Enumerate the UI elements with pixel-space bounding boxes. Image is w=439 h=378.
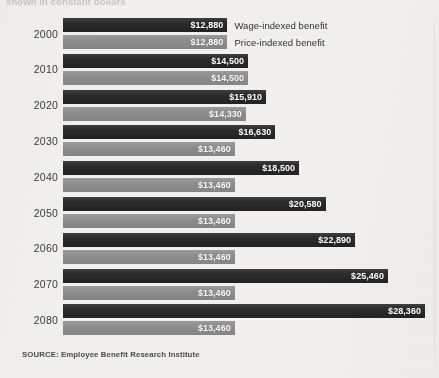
bar-group-2060: 2060$22,890$13,460 xyxy=(0,233,439,264)
price-indexed-value-label-2060: $13,460 xyxy=(198,250,231,264)
bar-group-2040: 2040$18,500$13,460 xyxy=(0,161,439,192)
bar-group-2050: 2050$20,580$13,460 xyxy=(0,197,439,228)
price-indexed-value-label-2000: $12,880 xyxy=(191,35,224,49)
source-note: SOURCE: Employee Benefit Research Instit… xyxy=(22,350,200,359)
bar-group-2070: 2070$25,460$13,460 xyxy=(0,269,439,300)
wage-indexed-value-label-2050: $20,580 xyxy=(289,197,322,211)
price-indexed-bar-2040: $13,460 xyxy=(63,178,235,192)
price-indexed-value-label-2080: $13,460 xyxy=(198,321,231,335)
price-indexed-value-label-2040: $13,460 xyxy=(198,178,231,192)
legend-price-indexed: Price-indexed benefit xyxy=(234,37,324,48)
year-label-2000: 2000 xyxy=(14,28,58,40)
price-indexed-bar-2020: $14,330 xyxy=(63,107,246,121)
bar-group-2020: 2020$15,910$14,330 xyxy=(0,90,439,121)
price-indexed-bar-2060: $13,460 xyxy=(63,250,235,264)
price-indexed-bar-2030: $13,460 xyxy=(63,142,235,156)
page-headline: shown in constant dollars xyxy=(6,0,246,7)
wage-indexed-bar-2000: $12,880 xyxy=(63,18,227,32)
wage-indexed-value-label-2080: $28,360 xyxy=(388,304,421,318)
bar-group-2010: 2010$14,500$14,500 xyxy=(0,54,439,85)
wage-indexed-value-label-2070: $25,460 xyxy=(351,269,384,283)
year-label-2040: 2040 xyxy=(14,171,58,183)
year-label-2050: 2050 xyxy=(14,207,58,219)
year-label-2030: 2030 xyxy=(14,135,58,147)
price-indexed-bar-2070: $13,460 xyxy=(63,286,235,300)
year-label-2070: 2070 xyxy=(14,278,58,290)
wage-indexed-bar-2050: $20,580 xyxy=(63,197,326,211)
legend-wage-indexed: Wage-indexed benefit xyxy=(234,20,327,31)
price-indexed-bar-2080: $13,460 xyxy=(63,321,235,335)
wage-indexed-value-label-2040: $18,500 xyxy=(262,161,295,175)
wage-indexed-value-label-2020: $15,910 xyxy=(229,90,262,104)
wage-indexed-value-label-2030: $16,630 xyxy=(238,125,271,139)
bar-group-2000: 2000$12,880$12,880Wage-indexed benefitPr… xyxy=(0,18,439,49)
year-label-2010: 2010 xyxy=(14,63,58,75)
price-indexed-value-label-2030: $13,460 xyxy=(198,142,231,156)
price-indexed-value-label-2020: $14,330 xyxy=(209,107,242,121)
chart-page: shown in constant dollars 2000$12,880$12… xyxy=(0,0,439,378)
year-label-2020: 2020 xyxy=(14,99,58,111)
price-indexed-bar-2050: $13,460 xyxy=(63,214,235,228)
price-indexed-bar-2010: $14,500 xyxy=(63,71,248,85)
wage-indexed-value-label-2060: $22,890 xyxy=(318,233,351,247)
price-indexed-value-label-2010: $14,500 xyxy=(211,71,244,85)
year-label-2080: 2080 xyxy=(14,314,58,326)
bar-chart-plot: 2000$12,880$12,880Wage-indexed benefitPr… xyxy=(0,12,439,342)
wage-indexed-value-label-2010: $14,500 xyxy=(211,54,244,68)
price-indexed-value-label-2050: $13,460 xyxy=(198,214,231,228)
wage-indexed-bar-2020: $15,910 xyxy=(63,90,266,104)
price-indexed-value-label-2070: $13,460 xyxy=(198,286,231,300)
wage-indexed-bar-2010: $14,500 xyxy=(63,54,248,68)
wage-indexed-bar-2030: $16,630 xyxy=(63,125,275,139)
bar-group-2080: 2080$28,360$13,460 xyxy=(0,304,439,335)
wage-indexed-bar-2040: $18,500 xyxy=(63,161,299,175)
price-indexed-bar-2000: $12,880 xyxy=(63,35,227,49)
wage-indexed-bar-2060: $22,890 xyxy=(63,233,355,247)
year-label-2060: 2060 xyxy=(14,242,58,254)
wage-indexed-bar-2080: $28,360 xyxy=(63,304,425,318)
bar-group-2030: 2030$16,630$13,460 xyxy=(0,125,439,156)
wage-indexed-bar-2070: $25,460 xyxy=(63,269,388,283)
wage-indexed-value-label-2000: $12,880 xyxy=(191,18,224,32)
